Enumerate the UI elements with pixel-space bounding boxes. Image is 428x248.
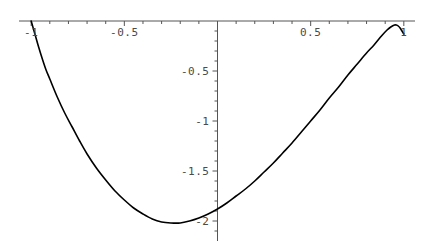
x-tick-label: 1 bbox=[400, 27, 407, 38]
y-tick-label: -1.5 bbox=[181, 166, 210, 177]
y-tick-label: -0.5 bbox=[181, 66, 210, 77]
x-tick-label: -1 bbox=[24, 27, 38, 38]
y-tick-label: -2 bbox=[195, 216, 209, 227]
plot-svg bbox=[0, 0, 428, 248]
x-tick-label: -0.5 bbox=[110, 27, 139, 38]
plot-canvas: -1-0.50.51 -0.5-1-1.5-2 bbox=[0, 0, 428, 248]
y-axis-ticks bbox=[213, 31, 218, 231]
x-tick-label: 0.5 bbox=[300, 27, 321, 38]
y-tick-label: -1 bbox=[195, 116, 209, 127]
